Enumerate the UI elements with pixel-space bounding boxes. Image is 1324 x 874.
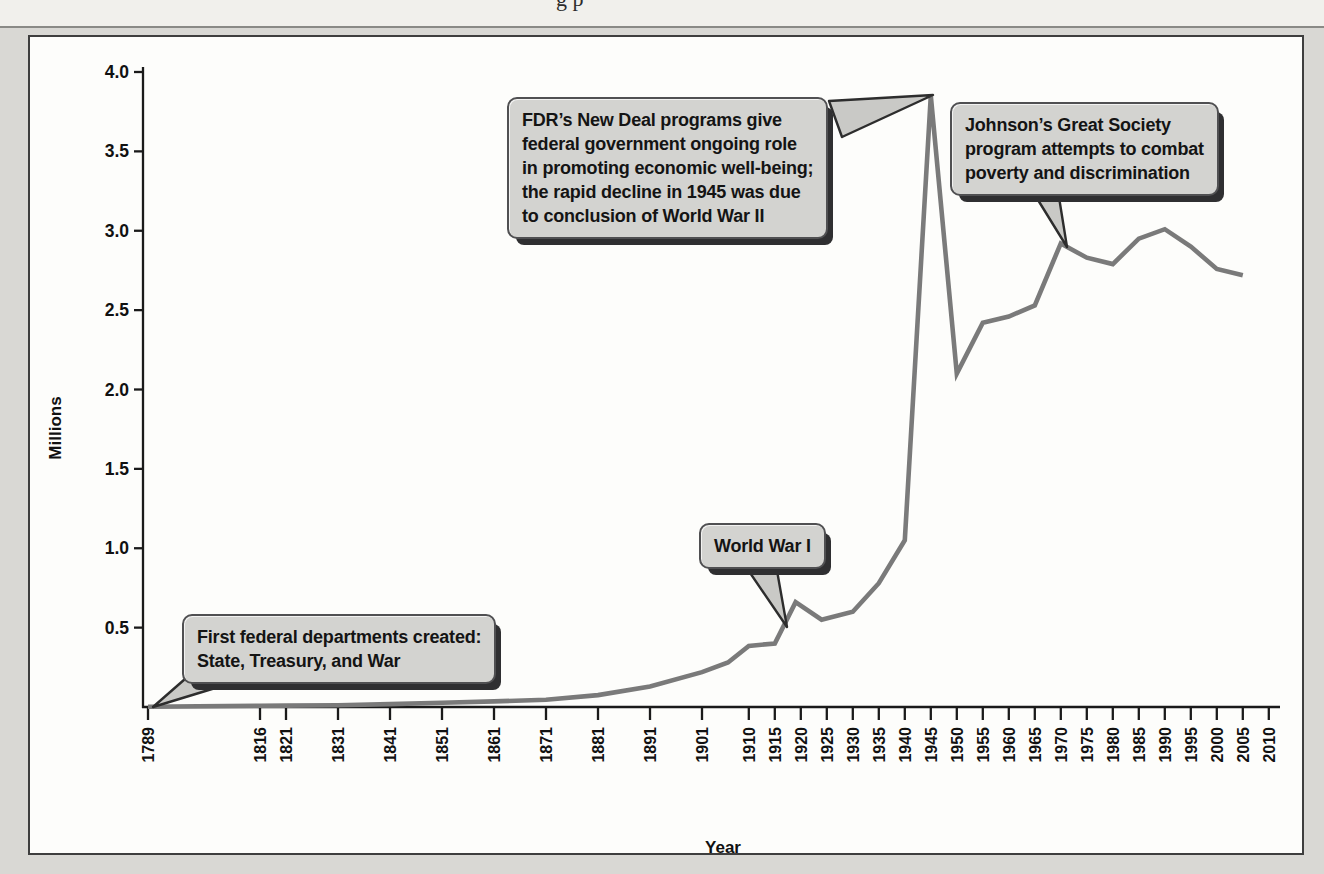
x-tick-label: 2000 bbox=[1209, 727, 1226, 763]
callout-world-war-1: World War I bbox=[699, 523, 826, 569]
x-tick-label: 1970 bbox=[1053, 727, 1070, 763]
x-tick-label: 1851 bbox=[434, 727, 451, 763]
page-top-strip: g p bbox=[0, 0, 1324, 28]
y-tick-label: 2.5 bbox=[105, 300, 130, 320]
x-tick-label: 1831 bbox=[330, 727, 347, 763]
x-axis-ticks: 1789181618211831184118511861187118811891… bbox=[140, 707, 1278, 763]
x-tick-label: 1910 bbox=[741, 727, 758, 763]
x-tick-label: 1985 bbox=[1131, 727, 1148, 763]
x-tick-label: 1841 bbox=[382, 727, 399, 763]
y-tick-label: 3.0 bbox=[105, 221, 130, 241]
x-tick-label: 1816 bbox=[252, 727, 269, 763]
callout-tail-fdr-new-deal bbox=[829, 95, 933, 137]
page-caption-fragment: g p bbox=[556, 0, 584, 12]
x-tick-label: 1965 bbox=[1027, 727, 1044, 763]
x-tick-label: 1925 bbox=[819, 727, 836, 763]
callout-great-society: Johnson’s Great Society program attempts… bbox=[950, 102, 1219, 196]
x-tick-label: 1861 bbox=[486, 727, 503, 763]
callout-fdr-new-deal: FDR’s New Deal programs give federal gov… bbox=[507, 97, 828, 239]
x-tick-label: 1789 bbox=[140, 727, 157, 763]
x-tick-label: 1975 bbox=[1079, 727, 1096, 763]
callout-tail-great-society bbox=[1030, 187, 1067, 247]
y-tick-label: 1.5 bbox=[105, 459, 130, 479]
x-tick-label: 1891 bbox=[642, 727, 659, 763]
x-axis-title: Year bbox=[593, 838, 853, 858]
y-tick-label: 2.0 bbox=[105, 380, 130, 400]
y-axis-ticks: 0.51.01.52.02.53.03.54.0 bbox=[105, 62, 143, 638]
chart-frame: 0.51.01.52.02.53.03.54.01789181618211831… bbox=[28, 35, 1304, 855]
y-tick-label: 3.5 bbox=[105, 141, 130, 161]
x-tick-label: 1901 bbox=[694, 727, 711, 763]
x-tick-label: 1945 bbox=[923, 727, 940, 763]
x-tick-label: 1950 bbox=[949, 727, 966, 763]
x-tick-label: 1871 bbox=[538, 727, 555, 763]
y-tick-label: 4.0 bbox=[105, 62, 130, 82]
y-tick-label: 1.0 bbox=[105, 538, 130, 558]
callout-first-departments: First federal departments created: State… bbox=[182, 614, 496, 684]
x-tick-label: 1960 bbox=[1001, 727, 1018, 763]
x-tick-label: 1955 bbox=[975, 727, 992, 763]
x-tick-label: 1915 bbox=[767, 727, 784, 763]
x-tick-label: 1821 bbox=[278, 727, 295, 763]
callout-tail-world-war-1 bbox=[742, 561, 787, 627]
x-tick-label: 1995 bbox=[1183, 727, 1200, 763]
x-tick-label: 1990 bbox=[1157, 727, 1174, 763]
y-axis-title: Millions bbox=[46, 363, 68, 493]
x-tick-label: 1980 bbox=[1105, 727, 1122, 763]
x-tick-label: 1920 bbox=[793, 727, 810, 763]
x-tick-label: 1881 bbox=[590, 727, 607, 763]
x-tick-label: 2005 bbox=[1235, 727, 1252, 763]
x-tick-label: 1935 bbox=[871, 727, 888, 763]
x-tick-label: 1940 bbox=[897, 727, 914, 763]
x-tick-label: 1930 bbox=[845, 727, 862, 763]
x-tick-label: 2010 bbox=[1261, 727, 1278, 763]
y-tick-label: 0.5 bbox=[105, 618, 130, 638]
